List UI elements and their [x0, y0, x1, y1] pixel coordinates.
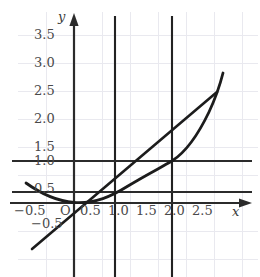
- y-tick-1-5: 1.5: [34, 139, 55, 154]
- origin-label: O: [60, 203, 71, 218]
- x-tick-1-0: 1.0: [108, 203, 129, 218]
- x-axis-label: x: [232, 204, 239, 219]
- chart-figure: 3.5 3.0 2.5 2.0 1.5 1.0 0.5 −0.5 −0.5 O …: [0, 0, 260, 277]
- x-tick-neg-0-5: −0.5: [14, 203, 46, 218]
- y-axis: [69, 13, 78, 277]
- y-tick-0-5: 0.5: [34, 181, 55, 196]
- x-tick-1-5: 1.5: [136, 203, 157, 218]
- y-tick-3-0: 3.0: [34, 55, 55, 70]
- data-series-curve: [26, 73, 223, 203]
- x-tick-2-5: 2.5: [192, 203, 213, 218]
- x-tick-2-0: 2.0: [164, 203, 185, 218]
- y-tick-2-0: 2.0: [34, 111, 55, 126]
- y-tick-2-5: 2.5: [34, 83, 55, 98]
- y-tick-3-5: 3.5: [34, 27, 55, 42]
- y-tick-1-0: 1.0: [34, 153, 55, 168]
- y-axis-label: y: [58, 9, 65, 24]
- x-tick-0-5: 0.5: [80, 203, 101, 218]
- y-tick-neg-0-5: −0.5: [31, 216, 63, 231]
